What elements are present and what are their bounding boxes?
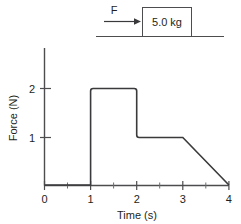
x-tick-label-4: 4 [226, 193, 232, 205]
force-time-chart: 1 2 0 1 2 3 4 Time (s) Force (N) [7, 48, 232, 221]
x-tick-label-2: 2 [134, 193, 140, 205]
force-time-curve [45, 89, 229, 186]
x-axis-title: Time (s) [117, 209, 157, 221]
y-tick-label-1: 1 [29, 132, 35, 144]
y-axis-title: Force (N) [7, 95, 19, 141]
x-tick-label-0: 0 [41, 193, 47, 205]
force-arrow-head [134, 18, 141, 25]
x-tick-label-1: 1 [88, 193, 94, 205]
x-tick-label-3: 3 [180, 193, 186, 205]
force-vector-label: F [111, 4, 118, 16]
mass-label: 5.0 kg [152, 16, 182, 28]
physics-force-time-figure: 5.0 kg F 1 2 [0, 0, 241, 224]
y-tick-label-2: 2 [29, 83, 35, 95]
y-axis-ticks [40, 89, 51, 138]
block-diagram: 5.0 kg F [96, 4, 224, 37]
